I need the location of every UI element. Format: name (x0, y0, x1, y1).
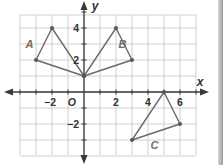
triangle-b-label: B (118, 38, 126, 50)
x-axis-right-arrow-icon (200, 89, 209, 96)
triangle-b (84, 28, 132, 76)
triangle-b-vertex (114, 26, 118, 30)
y-tick-label: 4 (73, 22, 79, 34)
triangle-a-label: A (25, 38, 34, 50)
triangle-c-label: C (150, 139, 159, 151)
y-axis-label: y (91, 0, 100, 13)
origin-label: O (68, 96, 76, 108)
triangle-c-vertex (178, 122, 182, 126)
triangle-a (36, 28, 84, 76)
triangle-c-vertex (130, 138, 134, 142)
x-tick-label: 2 (113, 96, 119, 108)
grid (20, 15, 196, 156)
triangle-a-vertex (50, 26, 54, 30)
axes (4, 1, 209, 164)
x-tick-label: −2 (44, 96, 56, 108)
x-tick-label: 4 (145, 96, 151, 108)
triangle-b-vertex (82, 74, 86, 78)
shapes (34, 26, 182, 142)
triangle-c (132, 92, 180, 140)
triangle-b-vertex (130, 58, 134, 62)
x-axis-left-arrow-icon (4, 89, 13, 96)
triangle-c-vertex (162, 90, 166, 94)
y-tick-label: 2 (73, 54, 79, 66)
y-axis-up-arrow-icon (81, 1, 88, 10)
triangle-a-vertex (34, 58, 38, 62)
coordinate-plane: −224642−2OxyABC (0, 0, 223, 165)
x-axis-label: x (196, 75, 205, 89)
x-tick-label: 6 (177, 96, 183, 108)
page-edge-shadow (218, 0, 223, 165)
y-tick-label: −2 (67, 118, 79, 130)
